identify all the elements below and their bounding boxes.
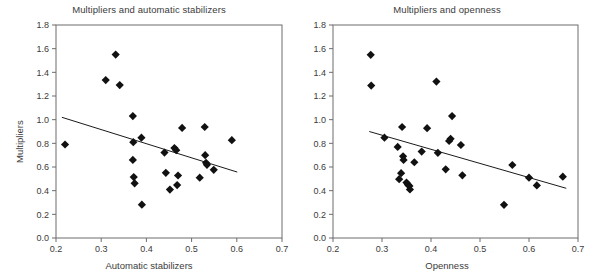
x-axis-title-left: Automatic stabilizers <box>0 260 298 271</box>
panel-multipliers-openness: Multipliers and openness 0.20.30.40.50.6… <box>298 0 596 280</box>
x-tick-label: 0.2 <box>50 244 63 254</box>
y-tick-label: 0.2 <box>36 210 49 220</box>
trend-line <box>62 117 237 172</box>
x-tick-label: 0.6 <box>231 244 244 254</box>
data-point-marker <box>138 201 146 209</box>
y-tick-label: 0.6 <box>313 162 326 172</box>
y-tick-label: 0.8 <box>313 139 326 149</box>
data-point-marker <box>398 123 406 131</box>
x-tick-label: 0.4 <box>140 244 153 254</box>
x-tick-label: 0.5 <box>474 244 487 254</box>
plot-area-left: 0.20.30.40.50.60.70.00.20.40.60.81.01.21… <box>0 0 298 280</box>
y-tick-label: 0.8 <box>36 139 49 149</box>
data-point-marker <box>201 151 209 159</box>
data-point-marker <box>160 148 168 156</box>
data-point-marker <box>367 51 375 59</box>
data-point-marker <box>442 165 450 173</box>
data-point-marker <box>61 140 69 148</box>
y-tick-label: 0.4 <box>313 186 326 196</box>
data-point-marker <box>112 50 120 58</box>
y-tick-label: 1.4 <box>313 68 326 78</box>
x-tick-label: 0.2 <box>327 244 340 254</box>
y-tick-label: 1.6 <box>313 44 326 54</box>
data-point-marker <box>367 81 375 89</box>
data-point-marker <box>129 156 137 164</box>
y-tick-label: 1.2 <box>36 91 49 101</box>
y-tick-label: 1.0 <box>36 115 49 125</box>
data-point-marker <box>559 173 567 181</box>
data-point-marker <box>166 186 174 194</box>
y-tick-label: 1.0 <box>313 115 326 125</box>
data-point-marker <box>129 138 137 146</box>
data-point-marker <box>162 169 170 177</box>
data-point-marker <box>434 149 442 157</box>
x-tick-label: 0.4 <box>425 244 438 254</box>
data-point-marker <box>130 173 138 181</box>
y-tick-label: 0.6 <box>36 162 49 172</box>
y-tick-label: 1.4 <box>36 68 49 78</box>
y-tick-label: 1.8 <box>313 20 326 30</box>
x-tick-label: 0.3 <box>376 244 389 254</box>
data-point-marker <box>432 77 440 85</box>
data-point-marker <box>116 81 124 89</box>
y-tick-label: 1.6 <box>36 44 49 54</box>
data-point-marker <box>228 136 236 144</box>
data-point-marker <box>525 174 533 182</box>
data-point-marker <box>423 124 431 132</box>
data-point-marker <box>418 148 426 156</box>
x-tick-label: 0.7 <box>276 244 289 254</box>
data-point-marker <box>394 143 402 151</box>
plot-area-right: 0.20.30.40.50.60.70.00.20.40.60.81.01.21… <box>298 0 596 280</box>
data-point-marker <box>131 179 139 187</box>
y-tick-label: 0.0 <box>36 233 49 243</box>
data-point-marker <box>102 76 110 84</box>
data-point-marker <box>458 171 466 179</box>
y-tick-label: 0.0 <box>313 233 326 243</box>
scatter-plot-figure: Multipliers and automatic stabilizers Mu… <box>0 0 596 280</box>
data-point-marker <box>174 171 182 179</box>
data-point-marker <box>533 181 541 189</box>
data-point-marker <box>410 158 418 166</box>
x-axis-title-right: Openness <box>298 260 596 271</box>
data-point-marker <box>196 174 204 182</box>
data-point-marker <box>178 124 186 132</box>
x-tick-label: 0.5 <box>185 244 198 254</box>
data-point-marker <box>137 134 145 142</box>
x-tick-label: 0.7 <box>572 244 585 254</box>
data-point-marker <box>201 123 209 131</box>
y-tick-label: 0.2 <box>313 210 326 220</box>
panel-multipliers-automatic-stabilizers: Multipliers and automatic stabilizers Mu… <box>0 0 298 280</box>
x-tick-label: 0.6 <box>523 244 536 254</box>
data-point-marker <box>129 112 137 120</box>
data-point-marker <box>210 166 218 174</box>
data-point-marker <box>508 161 516 169</box>
x-tick-label: 0.3 <box>95 244 108 254</box>
plot-frame <box>56 25 282 238</box>
data-point-marker <box>500 201 508 209</box>
data-point-marker <box>457 141 465 149</box>
data-point-marker <box>173 181 181 189</box>
y-tick-label: 0.4 <box>36 186 49 196</box>
y-tick-label: 1.8 <box>36 20 49 30</box>
data-point-marker <box>448 112 456 120</box>
y-tick-label: 1.2 <box>313 91 326 101</box>
